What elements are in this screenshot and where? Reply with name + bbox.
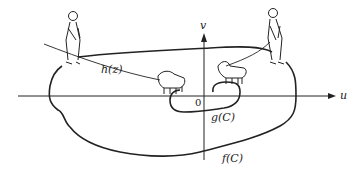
- curve-g-of-C: [170, 82, 240, 112]
- walker-right-figure: [268, 9, 284, 65]
- walker-left-figure: [66, 12, 80, 65]
- label-h-of-z: h(z): [101, 63, 122, 76]
- v-axis-label: v: [200, 19, 207, 32]
- u-axis-label: u: [340, 89, 347, 102]
- curve-f-of-C: [49, 47, 296, 156]
- leash-right: [226, 42, 270, 66]
- v-axis-arrow-icon: [201, 33, 207, 42]
- u-axis: [18, 93, 336, 99]
- dog-left-figure: [158, 71, 185, 94]
- u-axis-arrow-icon: [328, 93, 336, 99]
- rouche-dog-walk-diagram: u v h(z) 0 g(C) f(C): [0, 0, 359, 173]
- label-g-of-C: g(C): [211, 111, 235, 124]
- dog-right-figure: [218, 62, 246, 85]
- label-f-of-C: f(C): [221, 152, 243, 165]
- label-origin: 0: [195, 97, 201, 108]
